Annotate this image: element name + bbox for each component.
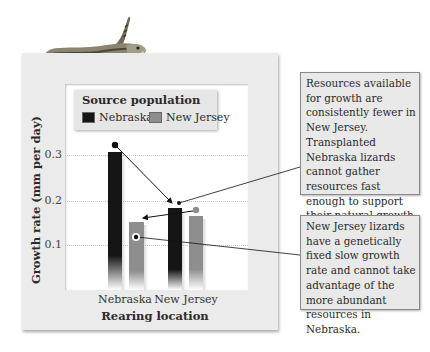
annotation-lines	[0, 0, 430, 352]
newjersey-rate-dot	[193, 207, 199, 213]
